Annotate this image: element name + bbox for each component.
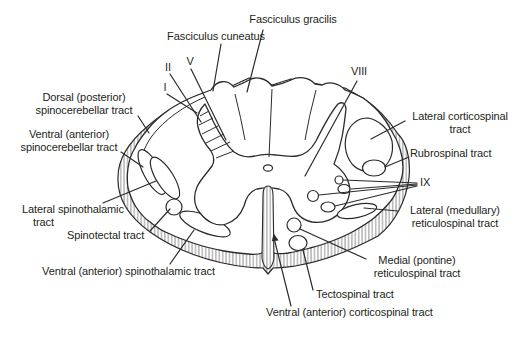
label-rubrospinal: Rubrospinal tract bbox=[410, 147, 515, 160]
label-fasciculus-gracilis: Fasciculus gracilis bbox=[230, 13, 356, 26]
shape-tectospinal-tract bbox=[289, 236, 307, 251]
label-lateral-corticospinal: Lateral corticospinal tract bbox=[403, 110, 517, 136]
label-dorsal-spinocerebellar: Dorsal (posterior) spinocerebellar tract bbox=[28, 91, 140, 117]
label-spinotectal: Spinotectal tract bbox=[67, 229, 162, 242]
spinal-cord-cross-section-diagram bbox=[0, 0, 523, 339]
shape-medial-reticulospinal-tract bbox=[287, 218, 301, 232]
shape-spinotectal-tract bbox=[166, 199, 182, 215]
figure-canvas: Fasciculus gracilis Fasciculus cuneatus … bbox=[0, 0, 523, 339]
label-fasciculus-cuneatus: Fasciculus cuneatus bbox=[153, 30, 279, 43]
label-lamina-ix: IX bbox=[420, 176, 442, 189]
anterior-median-fissure bbox=[262, 186, 274, 269]
label-ventral-corticospinal: Ventral (anterior) corticospinal tract bbox=[266, 306, 471, 319]
label-medial-reticulospinal: Medial (pontine) reticulospinal tract bbox=[359, 254, 475, 280]
label-ventral-spinothalamic: Ventral (anterior) spinothalamic tract bbox=[42, 265, 242, 278]
label-ventral-spinocerebellar: Ventral (anterior) spinocerebellar tract bbox=[13, 128, 125, 154]
shape-rubrospinal-tract bbox=[363, 160, 386, 176]
label-lateral-spinothalamic: Lateral spinothalamic tract bbox=[22, 203, 140, 229]
label-tectospinal: Tectospinal tract bbox=[316, 288, 411, 301]
label-lamina-ii: II bbox=[161, 61, 175, 74]
label-lamina-i: I bbox=[160, 81, 170, 94]
central-canal bbox=[264, 165, 273, 171]
label-lateral-reticulospinal: Lateral (medullary) reticulospinal tract bbox=[399, 204, 511, 230]
label-lamina-v: V bbox=[184, 55, 196, 68]
label-lamina-viii: VIII bbox=[345, 65, 373, 78]
